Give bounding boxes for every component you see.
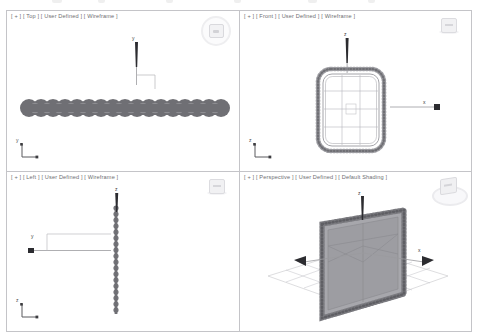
axis-arrow-z-left: z: [107, 184, 127, 220]
toolbar-item-2[interactable]: [98, 0, 105, 3]
svg-text:z: z: [358, 190, 361, 196]
object-beaded-panel-perspective[interactable]: z x: [252, 190, 464, 330]
axis-tripod-front: z: [248, 135, 282, 165]
viewport-front-label[interactable]: [ + ] [ Front ] [ User Defined ] [ Wiref…: [244, 13, 355, 19]
toolbar-item-6[interactable]: [368, 0, 375, 3]
svg-text:z: z: [115, 186, 118, 192]
viewport-left[interactable]: [ + ] [ Left ] [ User Defined ] [ Wirefr…: [6, 171, 239, 332]
viewport-top-label[interactable]: [ + ] [ Top ] [ User Defined ] [ Wirefra…: [11, 13, 118, 19]
view-cube-icon[interactable]: [439, 17, 461, 37]
viewport-perspective[interactable]: [ + ] [ Perspective ] [ User Defined ] […: [239, 171, 472, 332]
viewport-left-label[interactable]: [ + ] [ Left ] [ User Defined ] [ Wirefr…: [11, 174, 118, 180]
view-cube-icon-left[interactable]: [207, 178, 229, 198]
steering-wheel-core: [213, 30, 219, 33]
viewport-top[interactable]: [ + ] [ Top ] [ User Defined ] [ Wirefra…: [6, 10, 239, 171]
axis-arrow-z-front: z: [336, 29, 358, 77]
svg-text:x: x: [418, 247, 421, 253]
view-cube-core-persp: [444, 184, 452, 187]
axis-arrow-y-left: y: [27, 228, 119, 268]
svg-text:z: z: [16, 297, 19, 303]
steering-wheel-icon[interactable]: [201, 16, 231, 46]
toolbar-item-1[interactable]: [52, 0, 62, 3]
toolbar-item-4[interactable]: [234, 0, 241, 3]
svg-text:x: x: [423, 99, 426, 105]
viewport-front[interactable]: [ + ] [ Front ] [ User Defined ] [ Wiref…: [239, 10, 472, 171]
axis-tripod-top: y: [15, 135, 49, 165]
object-beaded-strip-top[interactable]: [19, 94, 235, 122]
svg-text:y: y: [132, 35, 135, 41]
svg-text:z: z: [249, 137, 252, 143]
view-cube-face-left[interactable]: [209, 179, 225, 194]
toolbar-fragment: [0, 0, 477, 8]
svg-text:y: y: [16, 137, 19, 143]
view-cube-face[interactable]: [441, 18, 457, 33]
svg-text:z: z: [344, 31, 347, 37]
viewport-grid: [ + ] [ Top ] [ User Defined ] [ Wirefra…: [6, 10, 472, 332]
axis-arrow-y: y: [111, 33, 171, 101]
modeling-app-window: [ + ] [ Top ] [ User Defined ] [ Wirefra…: [0, 0, 477, 335]
axis-arrow-x-front: x: [390, 99, 452, 115]
toolbar-item-5[interactable]: [308, 0, 317, 3]
view-cube-core: [445, 24, 453, 26]
svg-text:y: y: [31, 233, 34, 239]
viewport-perspective-label[interactable]: [ + ] [ Perspective ] [ User Defined ] […: [244, 174, 387, 180]
steering-wheel-inner: [209, 24, 224, 38]
view-cube-core-left: [213, 185, 221, 187]
axis-tripod-left: z: [15, 295, 49, 325]
toolbar-item-3[interactable]: [166, 0, 173, 3]
